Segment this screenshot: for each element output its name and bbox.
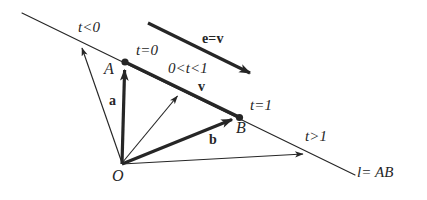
vector-a <box>122 70 125 164</box>
label-t-equals-1: t=1 <box>250 98 272 113</box>
label-t-equals-0: t=0 <box>136 43 158 58</box>
label-point-B: B <box>236 120 246 136</box>
label-vector-v: v <box>198 80 205 94</box>
label-vector-e-equals-v: e=v <box>202 32 224 46</box>
vector-to-t-gt-1 <box>122 154 303 164</box>
label-point-O: O <box>112 168 124 184</box>
label-t-between-0-and-1: 0<t<1 <box>168 61 208 76</box>
label-t-greater-than-1: t>1 <box>305 129 327 144</box>
label-line-l-equals-AB: l= AB <box>357 165 394 180</box>
label-vector-b: b <box>209 133 217 147</box>
label-point-A: A <box>104 61 114 77</box>
label-vector-a: a <box>109 94 116 108</box>
point-A-dot <box>121 58 128 65</box>
label-t-less-than-0: t<0 <box>78 20 100 35</box>
vector-line-diagram: t<0 t=0 0<t<1 t=1 t>1 e=v v a b A B O l=… <box>0 0 427 200</box>
